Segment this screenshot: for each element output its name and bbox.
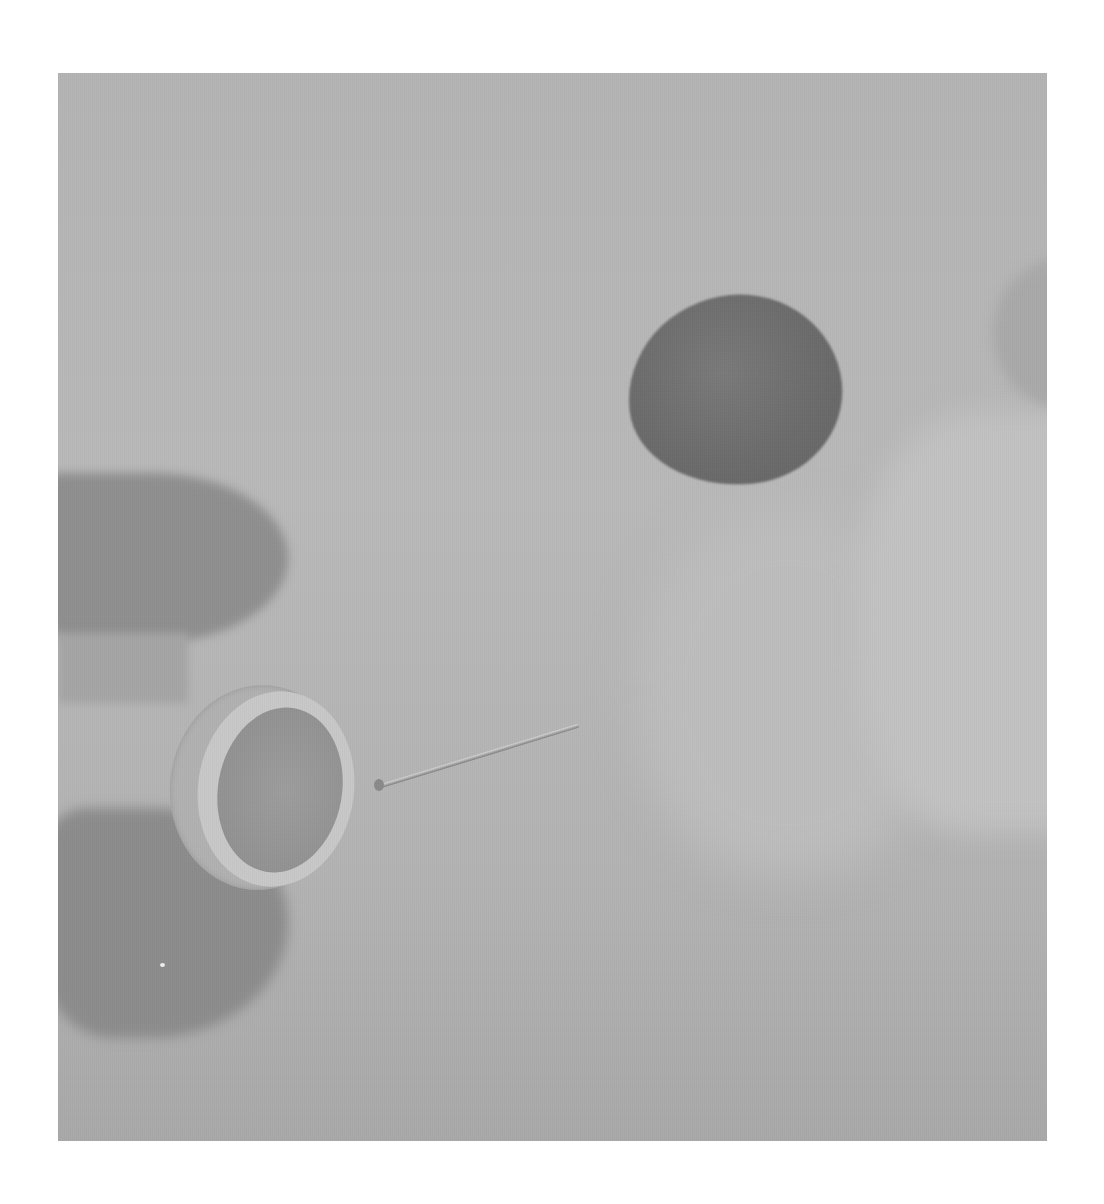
right-hand-finger	[858, 413, 1047, 833]
left-hand-bridge	[58, 633, 188, 703]
photograph	[58, 73, 1047, 1141]
dust-speck	[160, 963, 165, 967]
right-hand-fingertip	[993, 258, 1047, 408]
pin-head	[374, 779, 384, 791]
pin-shaft	[377, 724, 579, 789]
left-hand-upper-finger	[58, 473, 288, 643]
dark-disc	[619, 284, 852, 495]
